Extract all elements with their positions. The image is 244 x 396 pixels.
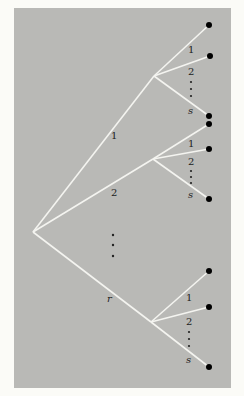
leaf-node: [206, 196, 212, 202]
leaf-node: [206, 113, 212, 119]
ellipsis-first-level: [112, 234, 114, 257]
ellipsis-sub2: [190, 170, 192, 184]
edge-r-s: [151, 322, 209, 367]
edge-2-s: [153, 159, 209, 199]
label-sub2-2: 2: [188, 156, 194, 167]
label-branch-r: r: [107, 293, 113, 304]
edge-1-s: [154, 76, 209, 116]
leaf-node: [206, 146, 212, 152]
label-subr-s: s: [186, 354, 191, 365]
ellipsis-sub1: [190, 81, 192, 97]
label-branch-1: 1: [111, 130, 117, 141]
edge-root-r: [33, 232, 151, 322]
label-branch-2: 2: [111, 187, 117, 198]
edge-1-1: [154, 25, 209, 76]
leaf-node: [206, 268, 212, 274]
leaf-node: [206, 364, 212, 370]
label-sub1-s: s: [188, 105, 193, 116]
leaf-node: [206, 121, 212, 127]
leaf-node: [206, 22, 212, 28]
label-sub2-1: 1: [188, 138, 194, 149]
tree-edges: [33, 25, 210, 367]
leaf-node: [206, 304, 212, 310]
ellipsis-subr: [188, 331, 190, 347]
edge-root-2: [33, 159, 153, 232]
label-sub1-2: 2: [188, 66, 194, 77]
edge-1-2: [154, 56, 210, 76]
leaf-node: [207, 53, 213, 59]
label-sub1-1: 1: [188, 44, 194, 55]
label-subr-2: 2: [186, 316, 192, 327]
label-subr-1: 1: [186, 292, 192, 303]
edge-root-1: [33, 76, 154, 232]
tree-diagram: 1 2 r 1 2 s 1 2 s 1 2 s: [0, 0, 244, 396]
leaf-nodes: [206, 22, 213, 370]
label-sub2-s: s: [188, 189, 193, 200]
